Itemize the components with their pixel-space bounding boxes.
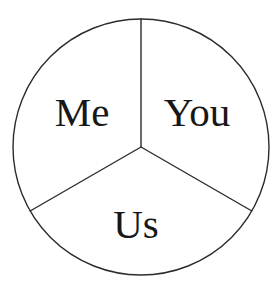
divided-circle-graphic — [0, 0, 279, 292]
diagram-canvas: Me You Us — [0, 0, 279, 292]
sector-label-us: Us — [16, 204, 256, 245]
sector-label-you: You — [117, 92, 277, 133]
